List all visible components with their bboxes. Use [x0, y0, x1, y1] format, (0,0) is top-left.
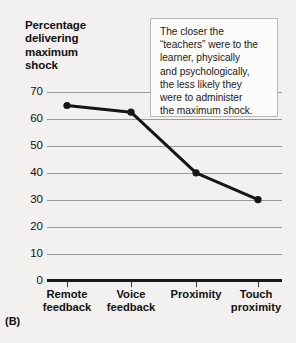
data-point-marker: [127, 109, 134, 116]
data-point-marker: [254, 196, 261, 203]
annotation-line: learner, physically: [160, 51, 276, 64]
data-point-marker: [192, 169, 199, 176]
annotation-line: were to administer: [160, 91, 276, 104]
annotation-callout: The closer the “teachers” were to the le…: [150, 18, 278, 117]
annotation-line: the less likely they: [160, 78, 276, 91]
annotation-line: the maximum shock.: [160, 104, 276, 117]
data-point-marker: [63, 102, 70, 109]
annotation-text: The closer the “teachers” were to the le…: [160, 25, 276, 117]
annotation-line: and psychologically,: [160, 65, 276, 78]
figure-panel-b: Percentage delivering maximum shock 70 6…: [0, 0, 296, 343]
annotation-line: The closer the: [160, 25, 276, 38]
panel-label: (B): [5, 315, 20, 327]
annotation-line: “teachers” were to the: [160, 38, 276, 51]
